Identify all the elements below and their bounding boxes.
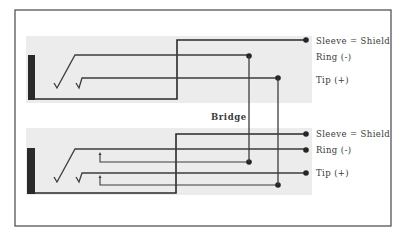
top-tip-label: Tip (+) — [316, 75, 349, 85]
bottom-ring-label: Ring (-) — [316, 145, 351, 155]
bottom-tip-terminal-dot — [303, 170, 309, 176]
top-sleeve-terminal-dot — [303, 37, 309, 43]
wiring-diagram: Sleeve = Shield Ring (-) Tip (+) Sleeve … — [0, 0, 403, 233]
bottom-sleeve-label: Sleeve = Shield — [316, 129, 390, 139]
top-sleeve-label: Sleeve = Shield — [316, 36, 390, 46]
bottom-ring-terminal-dot — [303, 147, 309, 153]
top-ring-label: Ring (-) — [316, 52, 351, 62]
bottom-sleeve-terminal-dot — [303, 131, 309, 137]
bottom-sleeve-contact — [27, 148, 35, 194]
top-sleeve-contact — [28, 55, 35, 100]
bottom-tip-label: Tip (+) — [316, 168, 349, 178]
top-jack-panel — [26, 36, 312, 103]
bridge-label: Bridge — [211, 112, 247, 122]
